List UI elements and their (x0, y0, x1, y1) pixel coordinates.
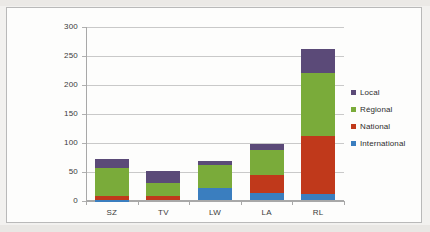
chart-canvas: 050100150200250300 SZTVLWLARL LocalRégio… (0, 0, 430, 232)
stacked-bar[interactable] (301, 0, 335, 232)
legend-item-rgional[interactable]: Régional (351, 101, 423, 118)
y-tick-label: 300 (52, 22, 78, 31)
bar-segment-local[interactable] (146, 171, 180, 183)
legend-swatch-icon (351, 107, 356, 112)
x-tick-label: LA (247, 208, 287, 217)
bar-segment-international[interactable] (95, 200, 129, 202)
y-tick-label: 0 (52, 196, 78, 205)
x-tick-label: RL (298, 208, 338, 217)
bar-segment-local[interactable] (95, 159, 129, 168)
bar-segment-international[interactable] (301, 194, 335, 200)
legend-swatch-icon (351, 124, 356, 129)
stacked-bar[interactable] (146, 0, 180, 232)
bar-segment-rgional[interactable] (95, 168, 129, 196)
legend-item-international[interactable]: International (351, 135, 423, 152)
bar-segment-rgional[interactable] (250, 150, 284, 175)
bar-segment-international[interactable] (250, 193, 284, 201)
legend-label: National (360, 122, 390, 131)
stacked-bar[interactable] (198, 0, 232, 232)
scanned-page-background: 050100150200250300 SZTVLWLARL LocalRégio… (0, 0, 430, 232)
y-axis-line (86, 27, 87, 201)
legend-swatch-icon (351, 141, 356, 146)
bar-segment-national[interactable] (95, 196, 129, 200)
bar-segment-national[interactable] (146, 196, 180, 200)
y-tick-label: 200 (52, 80, 78, 89)
x-tick-mark (189, 201, 190, 205)
x-tick-label: TV (143, 208, 183, 217)
x-tick-mark (138, 201, 139, 205)
bar-segment-rgional[interactable] (198, 165, 232, 188)
stacked-bar[interactable] (250, 0, 284, 232)
stacked-bar[interactable] (95, 0, 129, 232)
bar-segment-international[interactable] (198, 188, 232, 201)
bar-segment-national[interactable] (301, 136, 335, 194)
legend-item-local[interactable]: Local (351, 84, 423, 101)
bar-segment-rgional[interactable] (301, 73, 335, 136)
x-tick-mark (86, 201, 87, 205)
x-tick-label: SZ (92, 208, 132, 217)
y-tick-label: 100 (52, 138, 78, 147)
bar-segment-local[interactable] (301, 49, 335, 73)
y-tick-label: 50 (52, 167, 78, 176)
bar-segment-national[interactable] (250, 175, 284, 193)
chart-legend: LocalRégionalNationalInternational (351, 84, 423, 152)
x-tick-mark (344, 201, 345, 205)
legend-swatch-icon (351, 90, 356, 95)
x-tick-mark (241, 201, 242, 205)
x-tick-label: LW (195, 208, 235, 217)
bar-segment-local[interactable] (198, 161, 232, 164)
x-tick-mark (292, 201, 293, 205)
legend-item-national[interactable]: National (351, 118, 423, 135)
legend-label: Local (360, 88, 380, 97)
y-tick-label: 250 (52, 51, 78, 60)
bar-segment-rgional[interactable] (146, 183, 180, 196)
legend-label: International (360, 139, 405, 148)
legend-label: Régional (360, 105, 392, 114)
y-tick-label: 150 (52, 109, 78, 118)
bar-segment-local[interactable] (250, 144, 284, 150)
